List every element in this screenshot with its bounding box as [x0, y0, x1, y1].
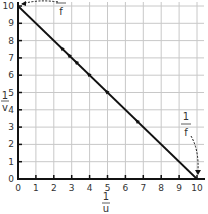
x-tick-label: 4 [87, 183, 93, 193]
grid-lines [18, 2, 204, 179]
annotation-label-den: f [59, 6, 63, 17]
y-tick-label: 2 [8, 139, 14, 149]
x-tick-label: 9 [176, 183, 182, 193]
annotations: 1f1f [21, 0, 201, 175]
arrowhead-icon [195, 170, 201, 175]
annotation-arrow-y-intercept [22, 1, 58, 4]
x-tick-label: 6 [123, 183, 129, 193]
y-tick-label: 9 [8, 18, 14, 28]
x-axis-label-num: 1 [103, 191, 109, 202]
y-tick-label: 8 [8, 36, 14, 46]
y-tick-label: 1 [8, 157, 14, 167]
y-tick-label: 0 [8, 174, 14, 184]
x-tick-label: 7 [140, 183, 146, 193]
x-tick-label: 0 [15, 183, 21, 193]
y-tick-label: 3 [8, 122, 14, 132]
x-axis-label-den: u [103, 203, 109, 214]
x-tick-label: 1 [33, 183, 39, 193]
y-tick-label: 10 [3, 1, 15, 11]
annotation-label-num: 1 [183, 111, 189, 122]
y-tick-label: 5 [8, 88, 14, 98]
tick-labels: 012345678910012345678910 [3, 1, 203, 193]
y-tick-label: 6 [8, 70, 14, 80]
axes [17, 2, 205, 180]
lens-reciprocal-plot: 012345678910012345678910 1f1f 1v1u [0, 0, 208, 214]
annotation-label-den: f [184, 127, 188, 138]
y-tick-label: 7 [8, 53, 14, 63]
x-tick-label: 3 [69, 183, 75, 193]
y-axis-label-num: 1 [2, 90, 8, 101]
y-axis-label-den: v [2, 102, 8, 113]
x-tick-label: 2 [51, 183, 57, 193]
x-tick-label: 8 [158, 183, 164, 193]
x-tick-label: 10 [191, 183, 203, 193]
y-tick-label: 4 [8, 105, 14, 115]
